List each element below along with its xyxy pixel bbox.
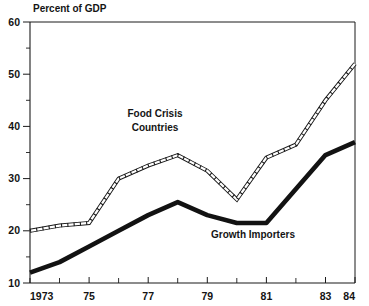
y-axis-minor-ticks xyxy=(26,48,30,257)
annotation-food-crisis-line2: Countries xyxy=(132,122,179,133)
line-chart: 60 50 40 30 20 10 Percent of GDP 1973 75… xyxy=(0,0,369,306)
x-tick-label-83: 83 xyxy=(320,290,332,302)
series-food-crisis-countries xyxy=(30,64,355,231)
x-tick-label-77: 77 xyxy=(142,290,154,302)
x-tick-label-79: 79 xyxy=(201,290,213,302)
y-tick-label-60: 60 xyxy=(8,16,20,28)
y-tick-label-20: 20 xyxy=(8,224,20,236)
y-tick-label-10: 10 xyxy=(8,277,20,289)
x-tick-label-75: 75 xyxy=(83,290,95,302)
annotation-growth-importers: Growth Importers xyxy=(211,229,295,240)
x-tick-label-84: 84 xyxy=(343,290,355,302)
y-tick-label-40: 40 xyxy=(8,120,20,132)
x-tick-label-81: 81 xyxy=(261,290,273,302)
y-axis-title: Percent of GDP xyxy=(33,3,107,14)
plot-frame-top-right xyxy=(30,22,355,283)
x-axis-ticks xyxy=(30,277,355,283)
chart-container: 60 50 40 30 20 10 Percent of GDP 1973 75… xyxy=(0,0,369,306)
y-tick-label-50: 50 xyxy=(8,68,20,80)
y-tick-label-30: 30 xyxy=(8,172,20,184)
x-tick-label-1973: 1973 xyxy=(30,290,54,302)
annotation-food-crisis-line1: Food Crisis xyxy=(127,108,182,119)
